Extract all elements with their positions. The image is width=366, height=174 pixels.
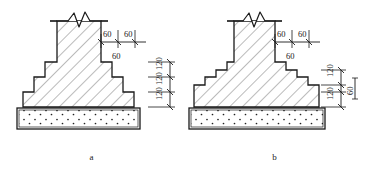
figure-b-drawing: 60 60 60 120 120 60	[183, 0, 366, 160]
dim-course-2-b: 60	[345, 87, 355, 96]
step-offset-dimension-b: 60 60 60	[272, 29, 320, 61]
concrete-footing-a	[17, 108, 140, 129]
footing-concrete-hatch-a	[19, 110, 138, 127]
step-offset-dimension-a: 60 60 60	[98, 29, 146, 61]
foundation-outline-a	[23, 21, 134, 107]
dim-course-1-a: 120	[154, 57, 164, 70]
footing-concrete-hatch-b	[191, 110, 323, 127]
dim-offset-bottom-a: 60	[112, 51, 121, 61]
dim-offset-top-right-a: 60	[124, 29, 133, 39]
figure-caption-a: a	[0, 152, 183, 162]
figure-a: 60 60 60 120 120 120 a	[0, 0, 183, 174]
course-height-dimension-a: 120 120 120	[148, 57, 175, 110]
figure-caption-b: b	[183, 152, 366, 162]
dim-offset-top-right-b: 60	[298, 29, 307, 39]
dim-course-3-a: 120	[154, 87, 164, 100]
course-height-dimension-b: 120 120 60	[321, 64, 358, 110]
foundation-body-a	[23, 21, 134, 107]
dim-course-1-b: 120	[325, 64, 335, 77]
concrete-footing-b	[189, 108, 325, 129]
dim-course-3-b: 120	[325, 87, 335, 100]
figure-b: 60 60 60 120 120 60 b	[183, 0, 366, 174]
dim-offset-bottom-b: 60	[286, 51, 295, 61]
figure-a-drawing: 60 60 60 120 120 120	[0, 0, 183, 160]
dim-offset-top-left-b: 60	[277, 29, 286, 39]
dim-course-2-a: 120	[154, 72, 164, 85]
dim-offset-top-left-a: 60	[103, 29, 112, 39]
